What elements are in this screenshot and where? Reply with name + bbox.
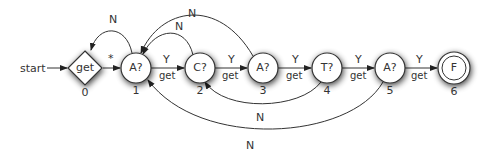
edge-1-0-label: N (109, 13, 117, 26)
node-0: get 0 (68, 51, 102, 99)
edge-3-4-label-y: Y (291, 53, 299, 66)
node-3-label: A? (256, 61, 270, 74)
node-3-index: 3 (260, 84, 267, 97)
node-1-label: A? (129, 61, 143, 74)
node-3: A? 3 (248, 53, 278, 97)
edge-5-6-label-y: Y (415, 53, 423, 66)
state-diagram: start * Y get Y get Y get Y get Y get N … (0, 0, 495, 157)
edge-3-1-label: N (188, 7, 196, 20)
edge-2-3-label-get: get (222, 70, 239, 81)
node-4-label: T? (320, 61, 334, 74)
edge-2-1-label: N (175, 20, 183, 33)
edge-1-0 (91, 31, 132, 53)
node-1: A? 1 (121, 53, 151, 97)
node-0-label: get (76, 61, 95, 74)
edge-3-1 (141, 15, 253, 56)
node-2-label: C? (193, 61, 207, 74)
edge-4-5-label-y: Y (354, 53, 362, 66)
edge-5-1-label: N (246, 139, 254, 152)
edge-4-2-label: N (256, 111, 264, 124)
node-5-index: 5 (387, 84, 394, 97)
node-6-final: F 6 (438, 52, 470, 98)
node-6-index: 6 (451, 85, 458, 98)
start-label: start (20, 62, 46, 75)
node-0-index: 0 (82, 86, 89, 99)
edge-1-2-label-get: get (159, 70, 176, 81)
edge-3-4-label-get: get (286, 70, 303, 81)
node-2-index: 2 (197, 84, 204, 97)
node-6-label: F (451, 61, 457, 74)
node-5-label: A? (383, 61, 397, 74)
edge-1-2-label-y: Y (162, 53, 170, 66)
edge-4-5-label-get: get (350, 70, 367, 81)
node-4-index: 4 (324, 84, 331, 97)
node-1-index: 1 (133, 84, 140, 97)
edge-2-3-label-y: Y (227, 53, 235, 66)
node-2: C? 2 (185, 53, 215, 97)
node-5: A? 5 (375, 53, 405, 97)
edge-0-1-label: * (108, 52, 114, 65)
edge-5-6-label-get: get (411, 70, 428, 81)
node-4: T? 4 (312, 53, 342, 97)
